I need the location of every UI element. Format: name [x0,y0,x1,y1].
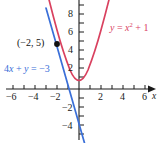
parabola-equation-label: y = x2 + 1 [110,23,148,33]
y-tick-label-2: 2 [68,63,73,73]
intersection-point-label: (−2, 5) [17,38,44,48]
y-tick-label-8: 8 [68,9,73,19]
x-axis-label: x [152,92,156,102]
intersection-point-marker [54,41,60,47]
y-tick-label-neg2: −2 [62,103,72,113]
x-tick-label-neg4: −4 [28,92,38,102]
x-tick-label-neg6: −6 [6,92,16,102]
graph-figure: −6 −4 −2 2 4 6 8 6 4 2 −2 −4 x (−2, 5) y… [0,0,162,143]
x-tick-label-pos4: 4 [120,92,125,102]
line-eq-rhs: −3 [39,63,50,74]
y-axis-ticks [79,5,84,134]
parabola-eq-tail: + 1 [135,22,148,33]
line-equation-label: 4x + y = −3 [4,64,50,74]
y-tick-label-neg4: −4 [62,121,72,131]
x-tick-label-pos2: 2 [98,92,103,102]
y-tick-label-6: 6 [68,27,73,37]
x-tick-label-pos6: 6 [142,92,147,102]
x-tick-label-neg2: −2 [50,92,60,102]
y-tick-label-4: 4 [68,45,73,55]
